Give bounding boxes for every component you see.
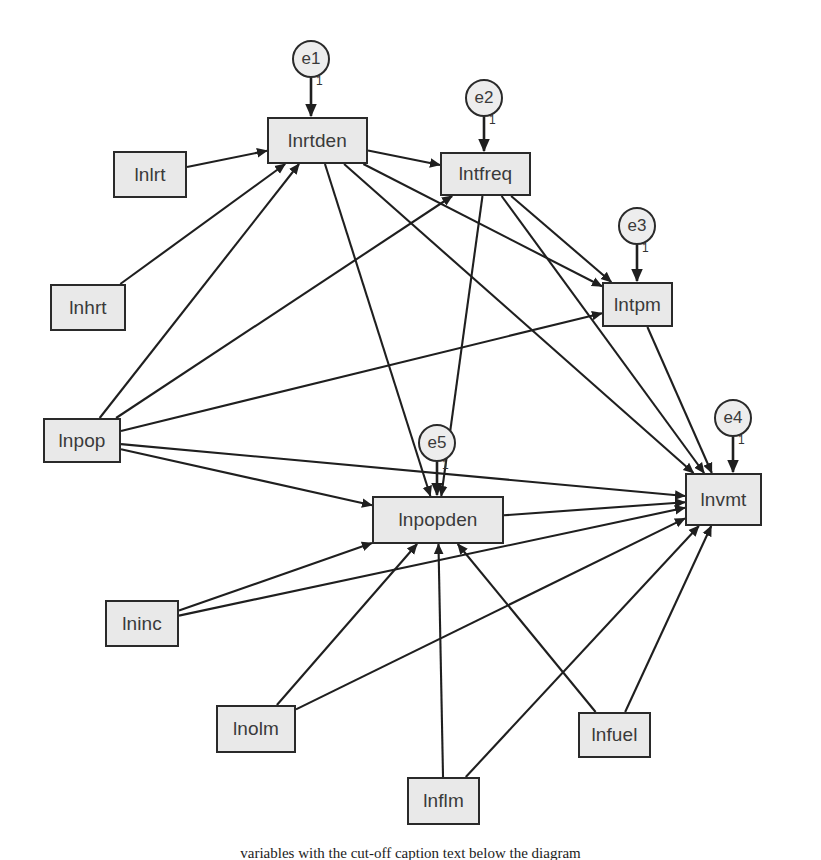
node-label: lnrtden — [288, 130, 347, 152]
error-weight-e3: 1 — [642, 241, 649, 255]
path-diagram: lnlrtlnhrtlnpoplninclnolmlnflmlnfuellnrt… — [0, 0, 821, 860]
path-lnflm-to-lnpopden — [438, 544, 443, 777]
path-lntfreq-to-lntpm — [511, 196, 611, 282]
node-label: lnpop — [59, 430, 106, 452]
node-box-lntfreq[interactable]: lntfreq — [440, 152, 531, 196]
error-circle-e1[interactable]: e1 — [292, 40, 330, 78]
path-edges-canvas — [0, 0, 821, 860]
node-label: lntpm — [614, 294, 661, 316]
node-box-lnflm[interactable]: lnflm — [407, 777, 480, 825]
node-box-lnvmt[interactable]: lnvmt — [685, 473, 762, 526]
node-label: lnfuel — [591, 724, 637, 746]
error-label: e3 — [628, 216, 647, 236]
path-lntpm-to-lnvmt — [647, 327, 711, 473]
node-box-lnolm[interactable]: lnolm — [216, 705, 296, 753]
node-box-lnpopden[interactable]: lnpopden — [372, 496, 504, 544]
node-label: lninc — [122, 613, 162, 635]
node-box-lntpm[interactable]: lntpm — [602, 282, 673, 327]
error-weight-e4: 1 — [738, 433, 745, 447]
node-label: lnolm — [233, 718, 279, 740]
path-lnolm-to-lnvmt — [296, 518, 685, 709]
error-label: e5 — [428, 433, 447, 453]
node-box-lnlrt[interactable]: lnlrt — [113, 151, 187, 198]
node-label: lnlrt — [134, 164, 165, 186]
error-weight-e5: 1 — [442, 458, 449, 472]
error-circle-e2[interactable]: e2 — [465, 79, 503, 117]
node-label: lnflm — [423, 790, 464, 812]
path-lnfuel-to-lnpopden — [458, 544, 596, 712]
node-box-lnrtden[interactable]: lnrtden — [267, 117, 368, 164]
path-lnrtden-to-lnpopden — [325, 164, 430, 496]
error-label: e1 — [302, 49, 321, 69]
path-lntfreq-to-lnvmt — [502, 196, 705, 473]
error-circle-e4[interactable]: e4 — [714, 399, 752, 437]
node-label: lnhrt — [69, 297, 106, 319]
path-lnpop-to-lnvmt — [121, 444, 685, 496]
node-label: lnpopden — [399, 509, 478, 531]
node-box-lnhrt[interactable]: lnhrt — [50, 284, 126, 331]
path-lnpop-to-lntpm — [121, 313, 602, 431]
error-weight-e2: 1 — [489, 113, 496, 127]
path-lninc-to-lnpopden — [179, 543, 372, 610]
error-label: e4 — [724, 408, 743, 428]
path-lnfuel-to-lnvmt — [625, 526, 711, 712]
figure-caption: variables with the cut-off caption text … — [0, 845, 821, 860]
path-lnpop-to-lnpopden — [121, 449, 372, 505]
error-circle-e3[interactable]: e3 — [618, 207, 656, 245]
path-lnlrt-to-lnrtden — [187, 151, 267, 167]
error-label: e2 — [475, 88, 494, 108]
node-box-lninc[interactable]: lninc — [105, 600, 179, 647]
path-lnpop-to-lnrtden — [100, 164, 299, 418]
path-lnrtden-to-lntfreq — [368, 151, 440, 165]
node-box-lnpop[interactable]: lnpop — [43, 418, 121, 463]
error-circle-e5[interactable]: e5 — [418, 424, 456, 462]
path-lnpop-to-lntfreq — [116, 196, 452, 418]
node-label: lnvmt — [701, 489, 747, 511]
error-weight-e1: 1 — [316, 74, 323, 88]
node-box-lnfuel[interactable]: lnfuel — [578, 712, 651, 758]
node-label: lntfreq — [459, 163, 513, 185]
